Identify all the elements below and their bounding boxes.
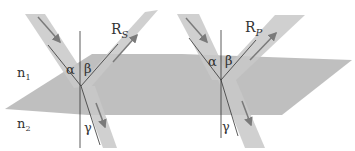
alpha-label-left: α [66, 62, 75, 77]
left-figure: α β γ RS n1 n2 [5, 10, 182, 148]
gamma-label-left: γ [84, 120, 92, 135]
alpha-label-right: α [208, 54, 217, 69]
gamma-label-right: γ [222, 119, 230, 134]
beta-label-right: β [225, 53, 233, 68]
beta-label-left: β [84, 61, 92, 76]
rp-label: RP [245, 19, 263, 38]
optics-diagram: α β γ RS n1 n2 α β γ RP [0, 0, 355, 151]
n1-label: n1 [17, 65, 30, 82]
n2-label: n2 [17, 116, 30, 133]
rs-label: RS [111, 21, 129, 40]
right-figure: α β γ RP [177, 14, 352, 148]
